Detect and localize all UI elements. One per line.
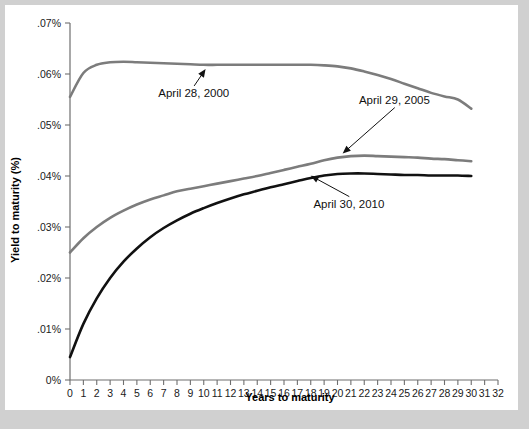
- x-tick-label: 21: [345, 387, 357, 399]
- x-tick-label: 30: [465, 387, 477, 399]
- x-tick-label: 29: [452, 387, 464, 399]
- annotation-arrow-head: [198, 69, 205, 78]
- y-tick-label: .04%: [37, 170, 61, 182]
- x-tick-label: 12: [225, 387, 237, 399]
- x-tick-label: 9: [187, 387, 193, 399]
- annotation-arrow-line: [315, 178, 349, 197]
- x-tick-label: 23: [372, 387, 384, 399]
- x-tick-label: 0: [67, 387, 73, 399]
- x-tick-label: 2: [94, 387, 100, 399]
- x-tick-label: 25: [399, 387, 411, 399]
- x-tick-label: 31: [479, 387, 491, 399]
- x-tick-label: 1: [80, 387, 86, 399]
- y-tick-label: 0%: [46, 374, 61, 386]
- x-tick-label: 26: [412, 387, 424, 399]
- annotation-arrow-line: [346, 108, 394, 151]
- chart-plate: 0%.01%.02%.03%.04%.05%.06%.07% 012345678…: [5, 5, 518, 410]
- x-tick-label: 5: [134, 387, 140, 399]
- x-tick-label: 28: [439, 387, 451, 399]
- x-tick-label: 24: [385, 387, 397, 399]
- y-tick-label: .05%: [37, 119, 61, 131]
- x-tick-label: 4: [121, 387, 127, 399]
- x-tick-label: 3: [107, 387, 113, 399]
- annotation-label: April 29, 2005: [359, 94, 430, 106]
- x-tick-label: 7: [161, 387, 167, 399]
- x-tick-label: 32: [492, 387, 504, 399]
- x-tick-label: 22: [358, 387, 370, 399]
- data-series-group: [70, 62, 471, 357]
- y-axis-ticks: 0%.01%.02%.03%.04%.05%.06%.07%: [37, 17, 70, 386]
- x-tick-label: 10: [198, 387, 210, 399]
- figure-canvas: 0%.01%.02%.03%.04%.05%.06%.07% 012345678…: [0, 0, 529, 429]
- x-tick-label: 27: [425, 387, 437, 399]
- yield-curve-chart: 0%.01%.02%.03%.04%.05%.06%.07% 012345678…: [5, 5, 518, 410]
- annotation-label: April 30, 2010: [313, 198, 384, 210]
- y-axis-title: Yield to maturity (%): [9, 157, 21, 263]
- x-axis-title: Years to maturity: [245, 391, 335, 403]
- y-tick-label: .03%: [37, 221, 61, 233]
- y-tick-label: .06%: [37, 68, 61, 80]
- y-tick-label: .07%: [37, 17, 61, 29]
- x-tick-label: 6: [147, 387, 153, 399]
- x-tick-label: 11: [212, 387, 223, 399]
- annotations-group: April 28, 2000April 29, 2005April 30, 20…: [158, 69, 430, 210]
- annotation-label: April 28, 2000: [158, 87, 229, 99]
- y-tick-label: .02%: [37, 272, 61, 284]
- x-tick-label: 8: [174, 387, 180, 399]
- series-line-april-29-2005: [70, 156, 471, 253]
- chart-axes: [70, 23, 498, 380]
- series-line-april-30-2010: [70, 173, 471, 357]
- y-tick-label: .01%: [37, 323, 61, 335]
